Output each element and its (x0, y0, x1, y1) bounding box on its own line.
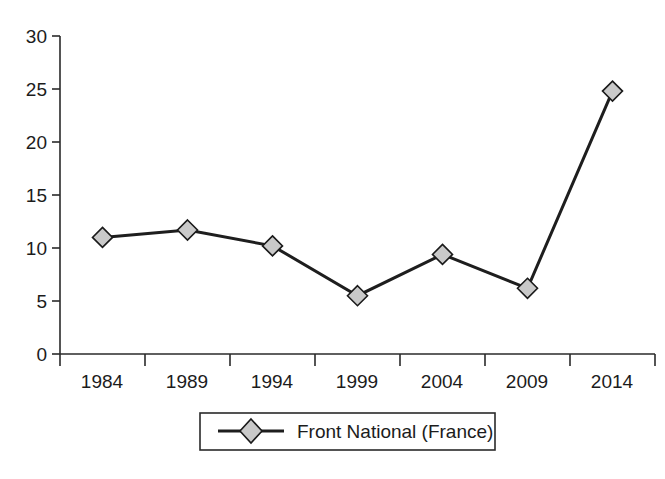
x-tick-label: 2014 (591, 371, 634, 392)
chart-canvas: 30 25 20 15 10 5 0 (0, 0, 665, 479)
y-tick-label: 0 (36, 344, 47, 365)
x-tick-label: 2004 (421, 371, 464, 392)
x-tick-label: 1999 (336, 371, 378, 392)
line-chart: 30 25 20 15 10 5 0 (0, 0, 665, 479)
x-tick-label: 2009 (506, 371, 548, 392)
y-tick-label: 15 (26, 185, 47, 206)
y-tick-label: 10 (26, 238, 47, 259)
legend-entry-label: Front National (France) (297, 421, 493, 442)
x-tick-label: 1984 (81, 371, 124, 392)
x-tick-label: 1994 (251, 371, 294, 392)
y-tick-label: 25 (26, 79, 47, 100)
chart-legend: Front National (France) (200, 413, 495, 450)
y-tick-label: 20 (26, 132, 47, 153)
x-tick-label: 1989 (166, 371, 208, 392)
y-tick-label: 30 (26, 26, 47, 47)
y-tick-label: 5 (36, 291, 47, 312)
